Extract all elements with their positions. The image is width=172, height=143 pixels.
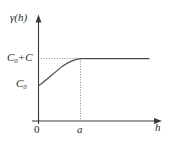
y-axis-label: γ(h) <box>10 12 27 23</box>
nugget-label: C0 <box>16 78 27 89</box>
variogram-figure: γ(h) C0+C C0 0 a h <box>0 0 172 143</box>
y-axis-arrow-icon <box>36 15 42 23</box>
variogram-curve <box>39 59 149 86</box>
sill-label: C0+C <box>7 52 33 63</box>
x-axis-label: h <box>155 122 161 133</box>
nugget-subscript: 0 <box>23 83 26 90</box>
range-label: a <box>77 124 83 135</box>
sill-suffix: +C <box>18 51 33 63</box>
sill-subscript: 0 <box>14 57 17 64</box>
origin-label: 0 <box>34 124 40 135</box>
